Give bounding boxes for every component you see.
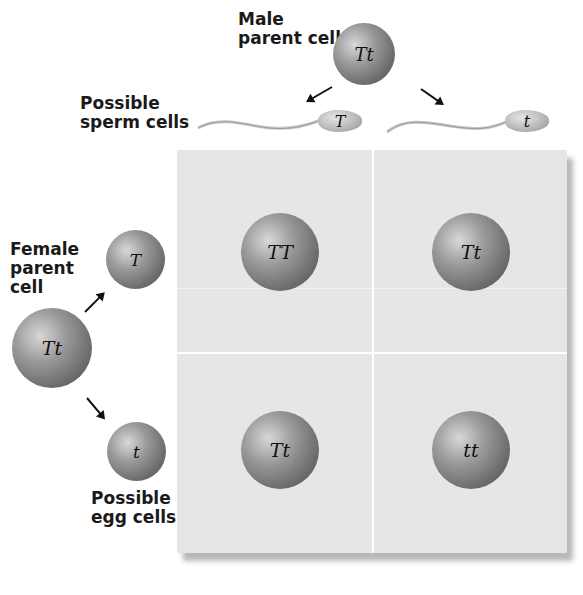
female-parent-genotype: Tt [42,337,62,359]
egg-cell-T: T [106,230,165,289]
arrow-to-sperm-t [420,88,442,105]
punnett-square: TT Tt Tt tt [177,150,567,553]
offspring-genotype: TT [267,241,293,263]
female-parent-label-line3: cell [10,278,79,297]
sperm-allele-T: T [335,112,346,131]
sperm-tail-t [385,108,525,138]
male-parent-label-line1: Male [238,10,341,29]
offspring-TT: TT [241,213,319,291]
offspring-genotype: tt [463,439,478,461]
female-parent-cell: Tt [12,308,92,388]
possible-egg-label-line1: Possible [91,489,176,508]
male-parent-label-line2: parent cell [238,29,341,48]
male-parent-cell: Tt [333,23,395,85]
egg-allele-T: T [130,250,141,270]
grid-horizontal-divider [177,352,567,354]
possible-sperm-label: Possible sperm cells [80,94,189,132]
offspring-Tt-top: Tt [432,213,510,291]
arrow-to-sperm-T [307,86,332,102]
egg-allele-t: t [133,442,140,462]
sperm-cell-T: T [318,110,362,132]
possible-sperm-label-line1: Possible [80,94,189,113]
sperm-cell-t: t [505,110,549,132]
arrow-to-egg-T [84,293,104,313]
sperm-allele-t: t [524,112,530,131]
arrow-to-egg-t [86,397,104,418]
sperm-tail-T [196,108,336,138]
offspring-Tt-bottom: Tt [241,411,319,489]
offspring-tt: tt [432,411,510,489]
offspring-genotype: Tt [270,439,290,461]
egg-cell-t: t [107,422,166,481]
female-parent-label: Female parent cell [10,240,79,297]
male-parent-label: Male parent cell [238,10,341,48]
possible-sperm-label-line2: sperm cells [80,113,189,132]
female-parent-label-line1: Female [10,240,79,259]
possible-egg-label-line2: egg cells [91,508,176,527]
female-parent-label-line2: parent [10,259,79,278]
possible-egg-label: Possible egg cells [91,489,176,527]
male-parent-genotype: Tt [354,44,373,65]
offspring-genotype: Tt [461,241,481,263]
